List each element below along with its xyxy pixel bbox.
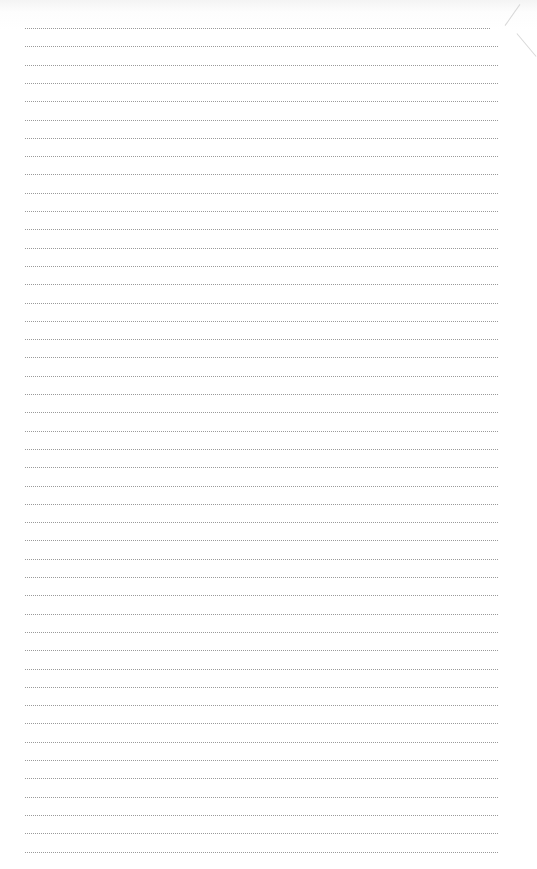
ruled-line: [25, 486, 498, 487]
ruled-line: [25, 595, 498, 596]
ruled-line: [25, 101, 498, 102]
ruled-line: [25, 504, 498, 505]
ruled-line: [25, 412, 498, 413]
ruled-line: [25, 705, 498, 706]
ruled-line: [25, 156, 498, 157]
ruled-line: [25, 632, 498, 633]
ruled-line: [25, 174, 498, 175]
ruled-line: [25, 376, 498, 377]
ruled-line: [25, 723, 498, 724]
edge-shadow: [516, 33, 536, 57]
ruled-line: [25, 742, 498, 743]
ruled-line: [25, 760, 498, 761]
ruled-line: [25, 357, 498, 358]
ruled-lines: [25, 0, 498, 869]
ruled-line: [25, 669, 498, 670]
ruled-line: [25, 449, 498, 450]
ruled-line: [25, 540, 498, 541]
ruled-line: [25, 65, 498, 66]
ruled-line: [25, 229, 498, 230]
ruled-line: [25, 138, 498, 139]
ruled-line: [25, 339, 498, 340]
paper-sheet: [0, 0, 537, 869]
ruled-line: [25, 522, 498, 523]
corner-fold-mark: [505, 4, 521, 26]
ruled-line: [25, 559, 498, 560]
ruled-line: [25, 211, 498, 212]
ruled-line: [25, 266, 498, 267]
ruled-line: [25, 577, 498, 578]
ruled-line: [25, 614, 498, 615]
ruled-line: [25, 284, 498, 285]
ruled-line: [25, 833, 498, 834]
ruled-line: [25, 650, 498, 651]
ruled-line: [25, 120, 498, 121]
ruled-line: [25, 28, 490, 29]
ruled-line: [25, 303, 498, 304]
ruled-line: [25, 778, 498, 779]
ruled-line: [25, 815, 498, 816]
ruled-line: [25, 797, 498, 798]
ruled-line: [25, 248, 498, 249]
ruled-line: [25, 46, 498, 47]
ruled-line: [25, 394, 498, 395]
ruled-line: [25, 687, 498, 688]
ruled-line: [25, 321, 498, 322]
ruled-line: [25, 467, 498, 468]
ruled-line: [25, 193, 498, 194]
ruled-line: [25, 431, 498, 432]
ruled-line: [25, 83, 498, 84]
ruled-line: [25, 852, 498, 853]
